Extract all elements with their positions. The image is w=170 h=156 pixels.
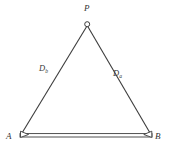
left-edge-label-subscript: b [45,68,48,74]
geometry-figure: P A B Db Da [0,0,170,156]
right-edge-label-subscript: a [119,73,122,79]
triangle-diagram-svg [0,0,170,156]
apex-vertex-label: P [84,4,90,13]
left-edge-label: Db [39,64,48,73]
triangle-left-edge [21,26,88,136]
right-edge-label: Da [113,69,122,78]
triangle-base-edge [20,134,152,137]
triangle-right-edge [88,26,152,136]
base-right-vertex-label: B [155,132,161,141]
base-left-vertex-label: A [6,132,12,141]
apex-vertex-marker [85,22,90,27]
